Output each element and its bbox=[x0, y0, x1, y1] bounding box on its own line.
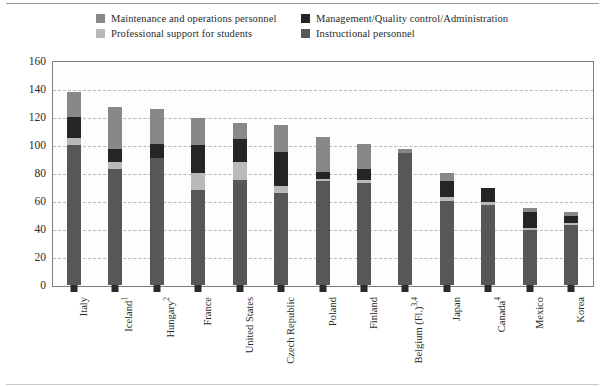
bar-stack bbox=[233, 123, 247, 285]
bar-stack bbox=[316, 137, 330, 285]
legend-item-instructional: Instructional personnel bbox=[301, 26, 566, 41]
bar-segment bbox=[191, 145, 205, 173]
x-axis-tick bbox=[568, 285, 575, 292]
bar-segment bbox=[233, 162, 247, 180]
bar-segment bbox=[108, 149, 122, 162]
bar-segment bbox=[274, 152, 288, 186]
legend-label-instructional: Instructional personnel bbox=[316, 26, 415, 41]
x-axis-label: Finland bbox=[368, 297, 379, 329]
bar-segment bbox=[564, 225, 578, 285]
bar-group bbox=[398, 62, 412, 285]
bar-group bbox=[233, 62, 247, 285]
bar-segment bbox=[440, 201, 454, 285]
legend-swatch-management-icon bbox=[301, 14, 310, 23]
bar-segment bbox=[67, 145, 81, 285]
legend-swatch-instructional-icon bbox=[301, 29, 310, 38]
bar-segment bbox=[67, 138, 81, 145]
bar-segment bbox=[108, 162, 122, 169]
legend-label-support: Professional support for students bbox=[111, 26, 252, 41]
y-axis-tick-40: 40 bbox=[2, 224, 46, 234]
bar-group bbox=[481, 62, 495, 285]
bar-stack bbox=[108, 107, 122, 285]
bar-stack bbox=[274, 125, 288, 285]
x-axis-label: Poland bbox=[327, 297, 338, 326]
top-horizontal-rule bbox=[6, 3, 599, 4]
bottom-horizontal-rule bbox=[6, 384, 599, 385]
x-axis-tick bbox=[485, 285, 492, 292]
bar-segment bbox=[481, 188, 495, 202]
bar-group bbox=[523, 62, 537, 285]
x-axis-label: France bbox=[202, 297, 213, 326]
x-axis-tick bbox=[153, 285, 160, 292]
x-axis-tick bbox=[319, 285, 326, 292]
bar-segment bbox=[274, 193, 288, 285]
x-axis-tick bbox=[443, 285, 450, 292]
bar-group bbox=[357, 62, 371, 285]
bar-segment bbox=[191, 118, 205, 145]
y-axis-tick-0: 0 bbox=[2, 280, 46, 290]
bar-segment bbox=[274, 125, 288, 152]
x-axis-tick bbox=[278, 285, 285, 292]
x-axis-tick bbox=[526, 285, 533, 292]
x-axis-label: Hungary2 bbox=[161, 297, 176, 338]
bar-group bbox=[67, 62, 81, 285]
legend-item-support: Professional support for students bbox=[96, 26, 301, 41]
bar-segment bbox=[440, 173, 454, 181]
bar-stack bbox=[481, 188, 495, 285]
bar-stack bbox=[150, 109, 164, 285]
bar-group bbox=[316, 62, 330, 285]
legend-label-management: Management/Quality control/Administratio… bbox=[316, 11, 508, 26]
bar-segment bbox=[316, 181, 330, 285]
x-axis-tick bbox=[360, 285, 367, 292]
x-axis-label: Iceland1 bbox=[119, 297, 134, 332]
bar-group bbox=[150, 62, 164, 285]
x-axis-label: Italy bbox=[78, 297, 89, 316]
bar-segment bbox=[523, 212, 537, 227]
y-axis-tick-100: 100 bbox=[2, 140, 46, 150]
x-axis-label: Canada4 bbox=[492, 297, 507, 332]
bar-stack bbox=[67, 92, 81, 285]
bar-segment bbox=[150, 144, 164, 158]
x-axis-label: Czech Republic bbox=[285, 297, 296, 364]
bar-segment bbox=[564, 216, 578, 223]
bar-segment bbox=[233, 123, 247, 140]
x-axis-label: Japan bbox=[451, 297, 462, 321]
bar-segment bbox=[150, 109, 164, 144]
y-axis-tick-120: 120 bbox=[2, 112, 46, 122]
bar-segment bbox=[108, 107, 122, 149]
y-axis-tick-20: 20 bbox=[2, 252, 46, 262]
bar-segment bbox=[191, 173, 205, 190]
y-axis-tick-160: 160 bbox=[2, 56, 46, 66]
x-axis-tick bbox=[402, 285, 409, 292]
bar-stack bbox=[398, 149, 412, 285]
x-axis-tick bbox=[195, 285, 202, 292]
x-axis-label: United States bbox=[244, 297, 255, 353]
bar-segment bbox=[481, 205, 495, 285]
bar-segment bbox=[357, 183, 371, 285]
bar-segment bbox=[440, 181, 454, 196]
y-axis-tick-140: 140 bbox=[2, 84, 46, 94]
bar-segment bbox=[316, 172, 330, 179]
bar-segment bbox=[67, 117, 81, 138]
x-axis-tick bbox=[112, 285, 119, 292]
y-axis-tick-80: 80 bbox=[2, 168, 46, 178]
legend-swatch-maintenance-icon bbox=[96, 14, 105, 23]
y-axis-tick-labels: 160140120100806040200 bbox=[0, 61, 46, 285]
bar-group bbox=[274, 62, 288, 285]
bar-segment bbox=[316, 137, 330, 172]
bar-group bbox=[108, 62, 122, 285]
bar-segment bbox=[233, 180, 247, 285]
chart-legend: Maintenance and operations personnel Man… bbox=[96, 11, 566, 41]
bar-segment bbox=[67, 92, 81, 117]
bar-group bbox=[564, 62, 578, 285]
bar-segment bbox=[274, 186, 288, 193]
bars-layer bbox=[53, 62, 592, 285]
bar-stack bbox=[523, 208, 537, 285]
y-axis-tick-60: 60 bbox=[2, 196, 46, 206]
bar-stack bbox=[191, 118, 205, 285]
bar-segment bbox=[398, 153, 412, 285]
x-axis-label: Belgium (Fl.)3,4 bbox=[409, 297, 424, 364]
bar-segment bbox=[191, 190, 205, 285]
x-axis-tick bbox=[236, 285, 243, 292]
bar-segment bbox=[357, 144, 371, 169]
